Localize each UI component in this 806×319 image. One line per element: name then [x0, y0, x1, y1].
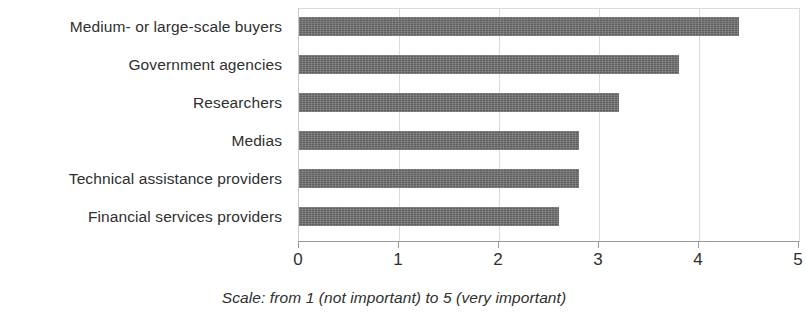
axis-tick: [498, 241, 499, 248]
category-label: Technical assistance providers: [0, 171, 282, 187]
category-label: Medias: [0, 133, 282, 149]
axis-tick-label: 2: [478, 250, 518, 270]
axis-tick: [298, 241, 299, 248]
axis-tick-label: 3: [578, 250, 618, 270]
category-label: Government agencies: [0, 57, 282, 73]
axis-tick: [398, 241, 399, 248]
category-axis: Medium- or large-scale buyers Government…: [0, 8, 290, 240]
axis-tick: [798, 241, 799, 248]
bar: [299, 131, 579, 150]
value-axis: 0 1 2 3 4 5: [298, 241, 800, 273]
axis-tick: [698, 241, 699, 248]
bar-chart-figure: Medium- or large-scale buyers Government…: [0, 0, 806, 319]
plot-area: [298, 8, 800, 242]
axis-tick-label: 4: [678, 250, 718, 270]
category-label: Financial services providers: [0, 209, 282, 225]
chart-caption: Scale: from 1 (not important) to 5 (very…: [0, 288, 806, 308]
axis-tick-label: 0: [278, 250, 318, 270]
category-label: Medium- or large-scale buyers: [0, 19, 282, 35]
bar: [299, 17, 739, 36]
axis-tick-label: 1: [378, 250, 418, 270]
bar: [299, 169, 579, 188]
bars-layer: [299, 9, 799, 241]
bar: [299, 93, 619, 112]
axis-tick-label: 5: [778, 250, 806, 270]
bar: [299, 207, 559, 226]
axis-tick: [598, 241, 599, 248]
bar: [299, 55, 679, 74]
category-label: Researchers: [0, 95, 282, 111]
